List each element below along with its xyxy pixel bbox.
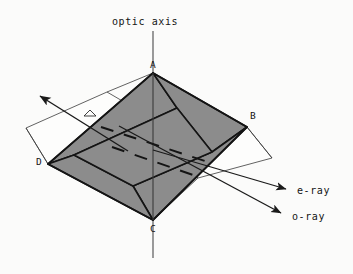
vertex-label-b: B <box>250 111 256 121</box>
diagram-canvas <box>0 0 353 274</box>
vertex-label-a: A <box>150 60 156 70</box>
page-title: optic axis <box>112 17 178 27</box>
e-ray-label: e-ray <box>297 186 330 196</box>
o-ray-label: o-ray <box>292 212 325 222</box>
vertex-label-d: D <box>36 157 42 167</box>
crystal-body <box>48 73 247 220</box>
optics-diagram: optic axis A B C D e-ray o-ray <box>0 0 353 274</box>
vertex-label-c: C <box>150 224 156 234</box>
